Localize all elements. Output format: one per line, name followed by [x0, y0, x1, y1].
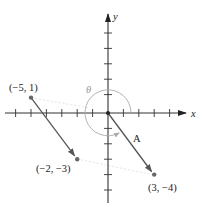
vector-translated	[31, 98, 75, 156]
y-axis-label: y	[112, 11, 118, 22]
guide-line-bottom	[77, 159, 154, 175]
point-label-3-neg4: (3, −4)	[148, 182, 177, 194]
point-neg2-neg3	[75, 157, 79, 161]
x-axis: x	[5, 108, 196, 119]
origin-point	[106, 111, 110, 115]
point-label-neg2-neg3: (−2, −3)	[36, 163, 71, 175]
point-neg5-1	[29, 95, 33, 99]
x-axis-label: x	[190, 108, 196, 119]
point-label-neg5-1: (−5, 1)	[9, 82, 38, 94]
guide-line-top	[31, 98, 90, 108]
vector-a-label: A	[133, 133, 141, 144]
vector-a: A	[108, 113, 152, 172]
point-3-neg4	[152, 172, 156, 176]
y-axis: y	[104, 11, 118, 203]
vector-diagram: x y θ A (	[0, 0, 198, 209]
theta-label: θ	[86, 84, 91, 95]
